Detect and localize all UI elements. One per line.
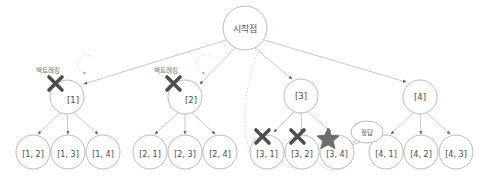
level1-nodes (50, 79, 437, 114)
node-root[interactable] (223, 6, 267, 50)
backtrack-loop-node2 (196, 55, 212, 73)
edge-1-to-13 (67, 114, 68, 134)
answer-callout-label: 정답 (361, 127, 373, 137)
node-2-3-circle[interactable] (168, 135, 202, 169)
edge-root-to-3 (255, 48, 292, 79)
edge-2-to-21 (155, 113, 178, 134)
diagram-svg (0, 0, 489, 188)
edge-root-to-1 (84, 40, 226, 84)
node-root-circle (223, 6, 267, 50)
node-3-circle[interactable] (284, 79, 318, 113)
diagram-canvas: 시작점 [1] [2] [3] [4] [1, 2] [1, 3] [1, 4]… (0, 0, 489, 188)
node-4-2-circle[interactable] (404, 135, 438, 169)
edge-root-to-2 (200, 48, 235, 84)
edge-2-to-24 (192, 113, 215, 134)
node-1-4-circle[interactable] (86, 135, 120, 169)
backtrack-label-node2: 백트래킹 (154, 65, 178, 75)
edge-1-to-14 (74, 113, 98, 134)
node-1-3-circle[interactable] (51, 135, 85, 169)
edge-4-to-43 (427, 113, 450, 134)
node-2-1-circle[interactable] (133, 135, 167, 169)
node-1-2-circle[interactable] (16, 135, 50, 169)
edge-3-to-32 (301, 113, 302, 132)
edge-1-to-12 (38, 113, 60, 134)
backtrack-loop-node1 (77, 55, 93, 73)
edge-4-to-41 (391, 113, 413, 134)
backtrack-label-node1: 백트래킹 (36, 65, 60, 75)
edge-root-to-4 (264, 40, 406, 82)
leaf-nodes (16, 135, 473, 169)
node-4-3-circle[interactable] (439, 135, 473, 169)
edge-4-to-42 (420, 114, 421, 134)
node-4-circle[interactable] (403, 80, 437, 114)
branch-edges (38, 112, 450, 134)
node-2-4-circle[interactable] (203, 135, 237, 169)
